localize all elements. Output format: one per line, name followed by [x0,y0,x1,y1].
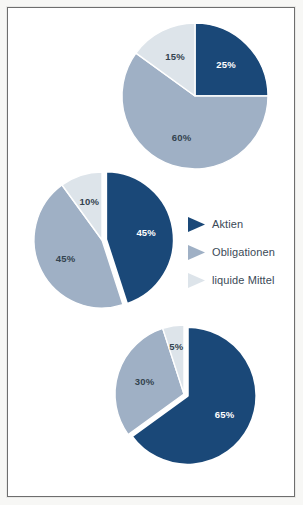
pie-portfolio-growth: 65%30%5% [115,325,257,465]
legend-item-obligationen[interactable]: Obligationen [186,240,290,264]
slice-value-label: 15% [165,51,185,62]
slice-value-label: 65% [215,409,235,420]
wedge-marker-icon [186,244,206,261]
legend-label: liquide Mittel [212,274,275,286]
slice-value-label: 60% [172,132,192,143]
slice-value-label: 10% [80,196,100,207]
slice-value-label: 45% [136,227,156,238]
legend-item-aktien[interactable]: Aktien [186,212,290,236]
legend-label: Aktien [212,218,243,230]
slice-value-label: 45% [56,253,76,264]
slice-value-label: 30% [135,376,155,387]
wedge-marker-icon [186,272,206,289]
legend: Aktien Obligationen liquide Mittel [186,212,290,296]
pie-portfolio-conservative: 25%60%15% [122,23,268,169]
legend-item-liquide-mittel[interactable]: liquide Mittel [186,268,290,292]
pie-portfolio-balanced: 45%45%10% [34,171,174,308]
slice-value-label: 25% [216,59,236,70]
wedge-marker-icon [186,216,206,233]
figure-canvas: 25%60%15%45%45%10%65%30%5% Aktien Obliga… [0,0,303,505]
slice-value-label: 5% [169,341,183,352]
legend-label: Obligationen [212,246,275,258]
